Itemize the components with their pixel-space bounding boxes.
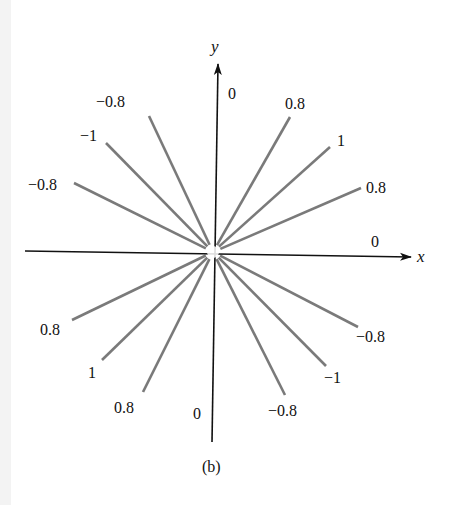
ray-line [219,258,326,366]
ray-line [143,259,209,392]
ray-slope-label: 1 [337,132,345,149]
ray-slope-label: 1 [88,364,96,381]
ray-line [220,188,361,249]
ray-slope-label: 0 [193,405,201,422]
ray-line [72,255,206,320]
figure-caption: (b) [202,458,221,476]
ray-slope-label: 0 [228,85,236,102]
ray-slope-label: −1 [324,369,341,386]
ray-slope-label: −0.8 [268,402,297,419]
ray-slope-label: −0.8 [28,176,57,193]
ray-line [220,256,358,327]
ray-slope-label: 0.8 [366,179,386,196]
ray-slope-label: −0.8 [356,328,385,345]
ray-slope-label: 0.8 [114,399,134,416]
ray-line [102,258,207,360]
direction-field-diagram: x y 00.810.80−0.8−1−0.80.810.80−0.8−1−0.… [0,0,450,505]
ray-line [106,143,207,246]
ray-line [217,117,290,245]
origin-marker [207,246,219,258]
ray-slope-label: −1 [80,127,97,144]
ray-slope-label: 0.8 [40,321,60,338]
ray-line [217,259,285,395]
y-axis-label: y [209,37,219,56]
ray-slope-label: 0 [371,233,379,250]
x-axis-label: x [416,247,425,266]
ray-slope-label: 0.8 [285,95,305,112]
ray-line [219,147,330,247]
ray-slope-label: −0.8 [96,93,125,110]
